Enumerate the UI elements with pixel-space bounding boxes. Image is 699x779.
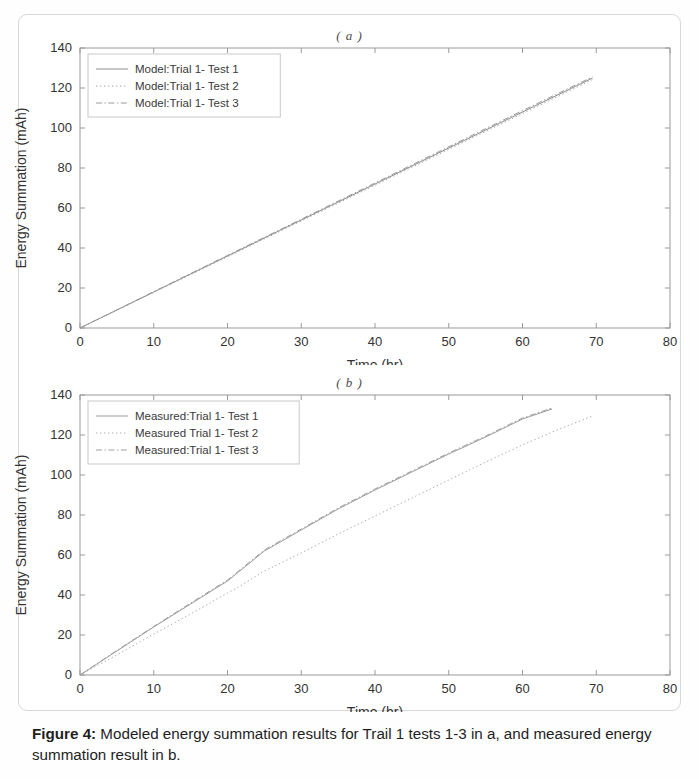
y-tick-label: 60	[58, 547, 72, 562]
legend-label: Model:Trial 1- Test 2	[135, 80, 239, 92]
y-tick-label: 60	[58, 200, 72, 215]
y-tick-label: 100	[50, 120, 72, 135]
legend-label: Measured:Trial 1- Test 1	[135, 410, 258, 422]
y-tick-label: 40	[58, 587, 72, 602]
x-tick-label: 20	[220, 681, 234, 696]
y-tick-label: 120	[50, 80, 72, 95]
y-tick-label: 120	[50, 427, 72, 442]
x-tick-label: 80	[663, 681, 677, 696]
y-axis-label: Energy Summation (mAh)	[13, 454, 29, 615]
y-axis-label: Energy Summation (mAh)	[13, 107, 29, 268]
x-tick-label: 60	[515, 681, 529, 696]
x-tick-label: 40	[368, 681, 382, 696]
y-tick-label: 0	[65, 667, 72, 682]
y-tick-label: 80	[58, 160, 72, 175]
subplot-title-b: ( b )	[0, 375, 699, 391]
legend-label: Measured:Trial 1- Test 3	[135, 444, 258, 456]
chart-svg-a: 01020304050607080020406080100120140Time …	[0, 0, 699, 365]
x-tick-label: 0	[76, 681, 83, 696]
y-tick-label: 40	[58, 240, 72, 255]
x-tick-label: 50	[442, 681, 456, 696]
subplot-title-a: ( a )	[0, 28, 699, 44]
chart-panel-b: ( b ) 0102030405060708002040608010012014…	[0, 347, 699, 712]
x-tick-label: 30	[294, 681, 308, 696]
legend-label: Model:Trial 1- Test 3	[135, 97, 239, 109]
figure-caption: Figure 4: Modeled energy summation resul…	[32, 723, 668, 765]
caption-text: Modeled energy summation results for Tra…	[32, 725, 652, 763]
x-tick-label: 70	[589, 681, 603, 696]
x-tick-label: 10	[147, 681, 161, 696]
legend-label: Model:Trial 1- Test 1	[135, 63, 239, 75]
legend-label: Measured Trial 1- Test 2	[135, 427, 258, 439]
y-tick-label: 100	[50, 467, 72, 482]
y-tick-label: 20	[58, 627, 72, 642]
x-axis-label: Time (hr)	[347, 704, 403, 712]
caption-label: Figure 4:	[32, 725, 96, 742]
chart-svg-b: 01020304050607080020406080100120140Time …	[0, 347, 699, 712]
y-tick-label: 20	[58, 280, 72, 295]
chart-panel-a: ( a ) 0102030405060708002040608010012014…	[0, 0, 699, 365]
y-tick-label: 0	[65, 320, 72, 335]
y-tick-label: 80	[58, 507, 72, 522]
figure-page: ( a ) 0102030405060708002040608010012014…	[0, 0, 699, 779]
